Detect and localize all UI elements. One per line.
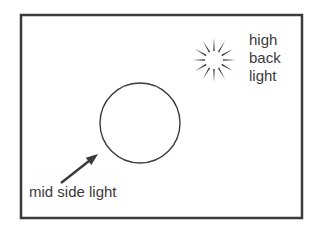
label-line-light: light [249, 67, 281, 85]
sun-ray [221, 64, 233, 71]
label-line-mid-side-light: mid side light [29, 183, 117, 200]
arrow-shaft [61, 160, 91, 183]
sun-ray [203, 67, 210, 79]
sun-ray [213, 38, 215, 51]
label-line-back: back [249, 49, 281, 67]
lighting-diagram: high back light mid side light [0, 0, 315, 239]
sun-ray [213, 69, 215, 82]
sun-ray [218, 67, 225, 79]
arrow-icon [61, 154, 98, 183]
mid-side-light-label: mid side light [29, 183, 117, 201]
sun-ray [223, 59, 236, 61]
subject-circle [100, 83, 180, 163]
label-line-high: high [249, 31, 281, 49]
sun-ray [221, 49, 233, 56]
sun-burst-icon [192, 38, 236, 82]
sun-ray [192, 59, 205, 61]
sun-ray [203, 41, 210, 53]
sun-ray [195, 64, 207, 71]
sun-ray [195, 49, 207, 56]
high-back-light-label: high back light [249, 31, 281, 85]
sun-ray [218, 41, 225, 53]
